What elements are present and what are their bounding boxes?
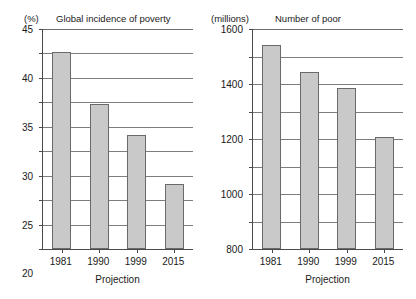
x-axis-tick <box>62 249 63 253</box>
gridline <box>253 29 403 30</box>
x-axis-tick <box>347 249 348 253</box>
bar-1999 <box>127 135 146 249</box>
x-axis-caption: Projection <box>42 274 193 286</box>
y-axis-tick-label: 1000 <box>221 190 243 200</box>
bar-1990 <box>90 104 109 249</box>
y-axis-tick: 0 <box>39 249 43 250</box>
y-axis-tick-label: 30 <box>22 172 33 182</box>
y-axis-tick: 5 <box>39 225 43 226</box>
y-axis-tick-label: 1600 <box>221 25 243 35</box>
y-axis-tick: 800 <box>249 139 253 140</box>
y-axis-tick: 35 <box>39 78 43 79</box>
x-axis-category-label: 1981 <box>50 256 72 268</box>
chart-title: Number of poor <box>275 13 341 24</box>
x-axis-category-label: 1981 <box>260 256 282 268</box>
y-axis-unit-label: (%) <box>24 13 39 24</box>
plot-area: 454035302520151050 <box>42 29 193 250</box>
y-axis-tick: 25 <box>39 127 43 128</box>
x-axis-category-labels: 1981199019992015 <box>42 256 193 268</box>
gridline <box>43 29 193 30</box>
bar-1981 <box>52 52 71 250</box>
chart-title: Global incidence of poverty <box>56 13 171 24</box>
y-axis-tick: 30 <box>39 102 43 103</box>
y-axis-tick: 1600 <box>249 29 253 30</box>
y-axis-tick-label: 45 <box>22 25 33 35</box>
x-axis-category-label: 1990 <box>297 256 319 268</box>
y-axis-tick: 1200 <box>249 84 253 85</box>
x-axis-tick <box>309 249 310 253</box>
x-axis-caption: Projection <box>252 274 403 286</box>
x-axis-tick <box>99 249 100 253</box>
bar-2015 <box>165 184 184 250</box>
x-axis-category-label: 1999 <box>335 256 357 268</box>
x-axis-category-label: 2015 <box>372 256 394 268</box>
y-axis-tick: 600 <box>249 167 253 168</box>
y-axis-tick-label: 25 <box>22 221 33 231</box>
y-axis-tick: 400 <box>249 194 253 195</box>
bar-1981 <box>262 45 281 249</box>
y-axis-tick: 20 <box>39 151 43 152</box>
x-axis-category-label: 1990 <box>87 256 109 268</box>
x-axis-category-label: 2015 <box>162 256 184 268</box>
x-axis-tick <box>137 249 138 253</box>
x-axis-tick <box>174 249 175 253</box>
chart-panel-global-incidence-of-poverty: (%) Global incidence of poverty 45403530… <box>0 0 208 299</box>
y-axis-tick: 10 <box>39 200 43 201</box>
x-axis-tick <box>272 249 273 253</box>
y-axis-tick-label: 40 <box>22 74 33 84</box>
y-axis-tick-label: 1200 <box>221 135 243 145</box>
x-axis-category-label: 1999 <box>125 256 147 268</box>
plot-area: 16001400120010008006004002000 <box>252 29 403 250</box>
y-axis-tick: 0 <box>249 249 253 250</box>
x-axis-tick <box>384 249 385 253</box>
y-axis-tick-label: 20 <box>22 269 33 279</box>
y-axis-tick-label: 35 <box>22 123 33 133</box>
y-axis-tick: 40 <box>39 53 43 54</box>
bar-1990 <box>300 72 319 249</box>
chart-panel-number-of-poor: (millions) Number of poor 16001400120010… <box>208 0 416 299</box>
y-axis-tick: 200 <box>249 222 253 223</box>
x-axis-category-labels: 1981199019992015 <box>252 256 403 268</box>
y-axis-tick: 1400 <box>249 57 253 58</box>
y-axis-tick: 15 <box>39 176 43 177</box>
bar-2015 <box>375 137 394 249</box>
bar-1999 <box>337 88 356 249</box>
y-axis-tick: 1000 <box>249 112 253 113</box>
figure-two-bar-charts: (%) Global incidence of poverty 45403530… <box>0 0 416 299</box>
y-axis-tick-label: 1400 <box>221 80 243 90</box>
y-axis-tick-label: 800 <box>226 245 243 255</box>
y-axis-unit-label: (millions) <box>211 13 249 24</box>
y-axis-tick: 45 <box>39 29 43 30</box>
